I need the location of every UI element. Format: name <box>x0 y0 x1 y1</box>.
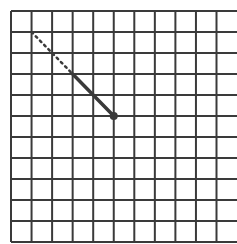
grid-diagram <box>0 0 237 244</box>
path-layer <box>32 32 118 120</box>
endpoint-dot <box>110 112 118 120</box>
